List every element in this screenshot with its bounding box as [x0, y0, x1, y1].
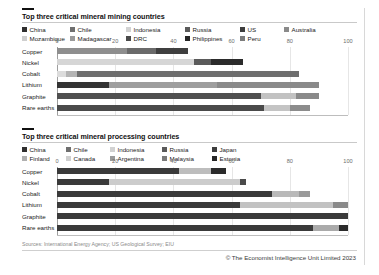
- bar-segment-china: [57, 191, 272, 197]
- bar-segment-australia: [57, 82, 109, 88]
- legend-label: Chile: [74, 147, 88, 153]
- legend-item-indonesia: Indonesia: [126, 27, 160, 33]
- processing-chart-title: Top three critical mineral processing co…: [22, 132, 179, 141]
- legend-swatch-icon: [22, 156, 27, 161]
- legend-item-japan: Japan: [212, 147, 236, 153]
- bar-segment-drc: [77, 71, 298, 77]
- stacked-bar-lithium: [57, 82, 319, 88]
- x-axis-tick-label: 40: [170, 158, 176, 164]
- bar-segment-china: [57, 93, 261, 99]
- bar-segment-china: [57, 225, 313, 231]
- bar-segment-china: [217, 82, 319, 88]
- panel-top-rule: [22, 8, 34, 10]
- bar-segment-australia: [290, 105, 310, 111]
- bar-segment-japan: [211, 168, 226, 174]
- legend-item-china: China: [22, 147, 46, 153]
- legend-swatch-icon: [126, 36, 131, 41]
- copyright-note: © The Economist Intelligence Unit Limite…: [226, 254, 356, 261]
- category-label-graphite: Graphite: [22, 93, 56, 100]
- mining-chart-panel: Top three critical mineral mining countr…: [14, 8, 365, 126]
- category-label-graphite: Graphite: [22, 213, 56, 220]
- axis-baseline: [57, 235, 348, 236]
- source-note: Sources: International Energy Agency; US…: [22, 241, 174, 247]
- bar-segment-philippines: [194, 59, 211, 65]
- category-label-lithium: Lithium: [22, 201, 56, 208]
- bar-segment-peru: [127, 48, 156, 54]
- category-label-copper: Copper: [22, 168, 56, 175]
- processing-chart-panel: Top three critical mineral processing co…: [14, 128, 365, 246]
- category-label-cobalt: Cobalt: [22, 70, 56, 77]
- bar-segment-finland: [272, 191, 298, 197]
- chart-figure: Top three critical mineral mining countr…: [0, 0, 379, 275]
- legend-swatch-icon: [162, 147, 167, 152]
- legend-label: Australia: [292, 27, 316, 33]
- x-axis-tick-label: 100: [343, 38, 352, 44]
- bar-segment-us: [264, 105, 290, 111]
- legend-swatch-icon: [240, 27, 245, 32]
- legend-label: US: [248, 27, 257, 33]
- gridline: [348, 167, 349, 235]
- bar-segment-australia: [66, 71, 78, 77]
- legend-item-finland: Finland: [22, 156, 50, 162]
- x-axis-tick-label: 20: [112, 38, 118, 44]
- processing-chart-legend: ChinaChileIndonesiaRussiaJapanFinlandCan…: [22, 145, 362, 163]
- legend-item-philippines: Philippines: [185, 36, 222, 42]
- bar-segment-china: [57, 202, 240, 208]
- stacked-bar-copper: [57, 168, 226, 174]
- bar-segment-indonesia: [109, 179, 240, 185]
- legend-swatch-icon: [126, 27, 131, 32]
- legend-swatch-icon: [162, 156, 167, 161]
- category-label-rare-earths: Rare earths: [22, 224, 56, 231]
- x-axis-tick-label: 0: [55, 38, 58, 44]
- panel-top-rule: [22, 128, 34, 130]
- x-axis-tick-label: 80: [287, 38, 293, 44]
- legend-swatch-icon: [66, 147, 71, 152]
- axis-baseline: [57, 115, 348, 116]
- legend-item-chile: Chile: [66, 147, 88, 153]
- legend-label: Argentina: [118, 156, 145, 162]
- legend-row: ChinaChileIndonesiaRussiaUSAustralia: [22, 25, 362, 34]
- stacked-bar-cobalt: [57, 191, 310, 197]
- legend-swatch-icon: [22, 27, 27, 32]
- legend-swatch-icon: [212, 147, 217, 152]
- bar-segment-argentina: [333, 202, 348, 208]
- category-label-nickel: Nickel: [22, 59, 56, 66]
- legend-label: China: [30, 27, 46, 33]
- legend-swatch-icon: [185, 36, 190, 41]
- legend-swatch-icon: [66, 156, 71, 161]
- title-divider: [22, 22, 357, 23]
- x-axis-tick-label: 0: [55, 158, 58, 164]
- legend-label: Philippines: [193, 36, 223, 42]
- bar-segment-chile: [179, 168, 211, 174]
- bar-segment-indonesia: [57, 71, 66, 77]
- legend-label: Russia: [193, 27, 212, 33]
- legend-item-estonia: Estonia: [212, 156, 240, 162]
- mining-chart-title: Top three critical mineral mining countr…: [22, 12, 165, 21]
- legend-swatch-icon: [240, 36, 245, 41]
- stacked-bar-cobalt: [57, 71, 299, 77]
- x-axis-tick-label: 40: [170, 38, 176, 44]
- stacked-bar-lithium: [57, 202, 348, 208]
- stacked-bar-rare-earths: [57, 225, 348, 231]
- legend-label: Japan: [220, 147, 237, 153]
- legend-swatch-icon: [212, 156, 217, 161]
- gridline: [348, 47, 349, 115]
- legend-label: China: [30, 147, 46, 153]
- legend-row: ChinaChileIndonesiaRussiaJapan: [22, 145, 362, 154]
- legend-label: Indonesia: [118, 147, 145, 153]
- bar-segment-madagascar: [296, 93, 319, 99]
- legend-item-australia: Australia: [284, 27, 316, 33]
- title-divider: [22, 142, 357, 143]
- bar-segment-indonesia: [57, 59, 194, 65]
- category-label-lithium: Lithium: [22, 81, 56, 88]
- x-axis-tick-label: 60: [228, 158, 234, 164]
- legend-swatch-icon: [22, 147, 27, 152]
- legend-item-us: US: [240, 27, 256, 33]
- bar-segment-finland: [240, 179, 246, 185]
- bar-segment-china: [156, 48, 188, 54]
- bar-segment-chile: [57, 48, 127, 54]
- legend-label: Russia: [170, 147, 189, 153]
- bar-segment-mozambique: [261, 93, 296, 99]
- legend-item-chile: Chile: [70, 27, 92, 33]
- legend-item-malaysia: Malaysia: [162, 156, 194, 162]
